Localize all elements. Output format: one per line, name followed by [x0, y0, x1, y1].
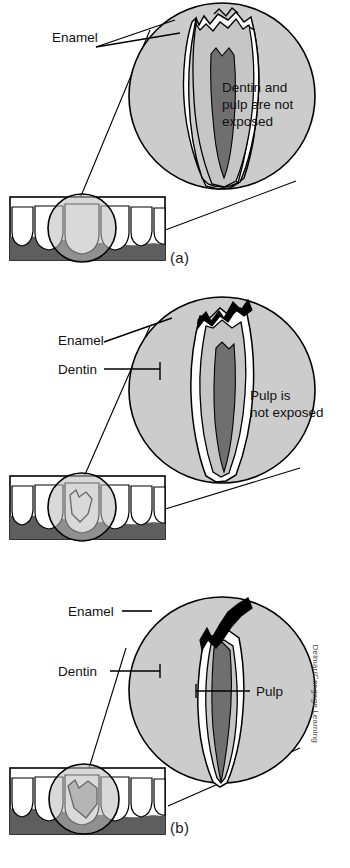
panel-a: Enamel Dentin and pulp are not exposed (… — [0, 0, 350, 290]
reference-diagram-a — [10, 194, 165, 262]
annotation-status-a-line1: Dentin and — [222, 80, 287, 95]
panel-a-illustration: Enamel Dentin and pulp are not exposed — [0, 0, 350, 290]
annotation-enamel-b: Enamel — [58, 333, 104, 348]
annotation-status-b-line2: not exposed — [250, 405, 324, 420]
figure-credit: Delmar/Cengage Learning — [311, 645, 320, 765]
magnified-view-c — [110, 597, 315, 787]
annotation-pulp-c: Pulp — [256, 684, 283, 699]
panel-c-illustration: Enamel Dentin Pulp — [0, 578, 350, 868]
tooth-fracture-figure: Enamel Dentin and pulp are not exposed (… — [0, 0, 350, 868]
annotation-dentin-c: Dentin — [58, 664, 97, 679]
annotation-enamel-a: Enamel — [52, 30, 98, 45]
panel-label-a: (a) — [170, 249, 189, 266]
reference-diagram-b — [10, 473, 165, 541]
annotation-enamel-c: Enamel — [68, 604, 114, 619]
magnified-view-a — [96, 3, 315, 189]
panel-b-illustration: Enamel Dentin Pulp is not exposed — [0, 290, 350, 580]
annotation-status-b-line1: Pulp is — [250, 388, 291, 403]
annotation-status-a-line3: exposed — [222, 114, 273, 129]
reference-diagram-c — [10, 764, 165, 834]
panel-c: Enamel Dentin Pulp (c) — [0, 578, 350, 868]
annotation-dentin-b: Dentin — [58, 362, 97, 377]
annotation-status-a-line2: pulp are not — [222, 97, 294, 112]
panel-b: Enamel Dentin Pulp is not exposed (b) — [0, 290, 350, 580]
